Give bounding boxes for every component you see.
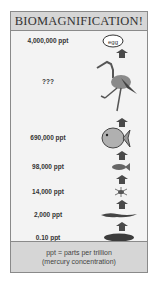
- bird-icon: [91, 56, 141, 116]
- arrow-up-icon: [116, 151, 128, 160]
- concentration-label: 14,000 ppt: [15, 188, 81, 195]
- arrow-up-icon: [116, 118, 128, 127]
- zooplankton-icon: [115, 187, 127, 197]
- svg-text:egg: egg: [108, 39, 118, 45]
- level-bird: ???: [11, 56, 147, 116]
- arrow-up-icon: [116, 222, 128, 231]
- legend-line-1: ppt = parts per trillion: [11, 248, 147, 257]
- level-egg: 4,000,000 ppt egg: [11, 34, 147, 48]
- small-fish-icon: [112, 163, 130, 171]
- arrow-up-icon: [116, 200, 128, 209]
- concentration-label: 0.10 ppt: [15, 234, 81, 241]
- large-fish-icon: [101, 127, 131, 149]
- arrow-up-icon: [116, 175, 128, 184]
- concentration-label: 98,000 ppt: [15, 163, 81, 170]
- concentration-label: 2,000 ppt: [15, 211, 81, 218]
- legend-line-2: (mercury concentration): [11, 257, 147, 266]
- concentration-label: 4,000,000 ppt: [15, 37, 81, 44]
- level-small-fish: 98,000 ppt: [11, 162, 147, 172]
- concentration-label: ???: [15, 78, 81, 85]
- egg-icon: egg: [102, 34, 124, 48]
- panel-title: BIOMAGNIFICATION!: [11, 12, 147, 31]
- algae-icon: [101, 212, 137, 218]
- biomagnification-panel: BIOMAGNIFICATION! 4,000,000 ppt egg ??? …: [10, 11, 148, 273]
- level-algae: 2,000 ppt: [11, 211, 147, 219]
- legend: ppt = parts per trillion (mercury concen…: [11, 241, 147, 272]
- concentration-label: 690,000 ppt: [15, 134, 81, 141]
- level-zooplankton: 14,000 ppt: [11, 187, 147, 197]
- level-large-fish: 690,000 ppt: [11, 127, 147, 149]
